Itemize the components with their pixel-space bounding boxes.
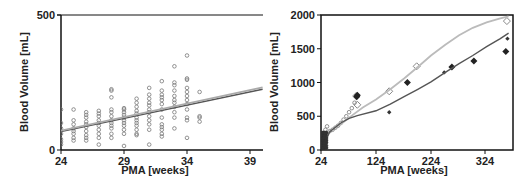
data-point bbox=[173, 89, 177, 93]
left-x-axis-label: PMA [weeks] bbox=[121, 164, 189, 176]
data-point bbox=[110, 136, 114, 140]
data-point bbox=[135, 101, 139, 105]
data-point bbox=[323, 142, 326, 145]
data-point bbox=[147, 119, 151, 123]
x-tick-label: 324 bbox=[476, 155, 495, 167]
right-panel: 050010001500200024124224324 PMA [weeks] … bbox=[268, 9, 513, 176]
right-x-axis-label: PMA [weeks] bbox=[380, 164, 448, 176]
plot-frame bbox=[321, 15, 513, 150]
data-point bbox=[147, 143, 151, 147]
y-tick-label: 1000 bbox=[291, 77, 315, 89]
y-tick-label: 500 bbox=[37, 9, 55, 21]
data-point bbox=[147, 123, 151, 127]
data-point bbox=[97, 136, 101, 140]
chart-figure: 050024293439 PMA [weeks] Blood Volume [m… bbox=[0, 0, 532, 187]
data-point bbox=[503, 18, 510, 25]
data-point bbox=[505, 36, 509, 40]
data-point bbox=[72, 108, 76, 112]
y-tick-label: 2000 bbox=[291, 9, 315, 21]
x-tick-label: 39 bbox=[244, 155, 256, 167]
data-point bbox=[160, 116, 164, 120]
data-point bbox=[185, 90, 189, 94]
data-point bbox=[147, 86, 151, 90]
data-point bbox=[350, 106, 354, 110]
right-plot-area bbox=[320, 16, 511, 151]
data-point bbox=[122, 144, 126, 148]
data-point bbox=[110, 132, 114, 136]
data-point bbox=[185, 86, 189, 90]
data-point bbox=[325, 144, 328, 147]
data-point bbox=[135, 97, 139, 101]
data-point bbox=[135, 105, 139, 109]
data-point bbox=[160, 89, 164, 93]
data-point bbox=[185, 108, 189, 112]
data-point bbox=[185, 54, 189, 58]
data-point bbox=[173, 65, 177, 69]
data-point bbox=[72, 123, 76, 127]
data-point bbox=[173, 116, 177, 120]
data-point bbox=[135, 128, 139, 132]
data-point bbox=[322, 136, 325, 139]
data-point bbox=[198, 90, 202, 94]
data-point bbox=[320, 134, 323, 137]
left-y-axis-label: Blood Volume [mL] bbox=[18, 32, 30, 132]
data-point bbox=[160, 102, 164, 106]
data-point bbox=[72, 119, 76, 123]
data-point bbox=[97, 143, 101, 147]
data-point bbox=[185, 94, 189, 98]
left-plot-area bbox=[59, 54, 262, 148]
data-point bbox=[97, 128, 101, 132]
left-panel: 050024293439 PMA [weeks] Blood Volume [m… bbox=[18, 9, 263, 176]
data-point bbox=[147, 93, 151, 97]
y-tick-label: 1500 bbox=[291, 43, 315, 55]
data-point bbox=[387, 110, 391, 114]
data-point bbox=[147, 97, 151, 101]
data-point bbox=[502, 48, 509, 55]
fit-line bbox=[61, 87, 263, 130]
data-point bbox=[147, 114, 151, 118]
data-point bbox=[84, 129, 88, 133]
data-point bbox=[122, 128, 126, 132]
data-point bbox=[345, 114, 349, 118]
fit-line bbox=[321, 16, 509, 150]
data-point bbox=[110, 96, 114, 100]
data-point bbox=[97, 132, 101, 136]
x-tick-label: 24 bbox=[55, 155, 68, 167]
data-point bbox=[323, 131, 326, 134]
data-point bbox=[185, 98, 189, 102]
data-point bbox=[173, 94, 177, 98]
data-point bbox=[325, 125, 329, 129]
right-y-axis-label: Blood Volume [mL] bbox=[268, 32, 280, 132]
y-tick-label: 500 bbox=[297, 110, 315, 122]
data-point bbox=[321, 147, 324, 150]
data-point bbox=[110, 114, 114, 118]
data-point bbox=[347, 110, 351, 114]
x-tick-label: 24 bbox=[315, 155, 328, 167]
data-point bbox=[185, 136, 189, 140]
data-point bbox=[122, 132, 126, 136]
data-point bbox=[160, 79, 164, 83]
fit-line bbox=[321, 33, 509, 150]
data-point bbox=[404, 79, 411, 86]
data-point bbox=[173, 127, 177, 131]
data-point bbox=[470, 57, 477, 64]
data-point bbox=[173, 110, 177, 114]
data-point bbox=[198, 120, 202, 124]
data-point bbox=[147, 128, 151, 132]
